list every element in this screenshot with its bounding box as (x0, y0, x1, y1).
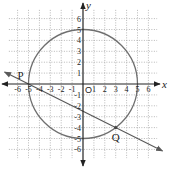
y-tick-label: -2 (74, 102, 81, 111)
point-q-marker (114, 126, 117, 129)
y-axis-label: y (85, 0, 91, 11)
diagram-canvas: -6-5-4-3-2-1123456 654321-1-2-3-4-5-6 x … (0, 0, 170, 169)
x-tick-label: 3 (114, 85, 118, 94)
x-tick-labels: -6-5-4-3-2-1123456 (14, 85, 150, 94)
point-p-label: P (18, 69, 24, 81)
x-axis-label: x (161, 78, 167, 90)
x-tick-label: -2 (58, 85, 65, 94)
y-tick-label: -6 (74, 145, 81, 154)
x-tick-label: -5 (25, 85, 32, 94)
x-tick-label: -4 (36, 85, 43, 94)
origin-label: O (85, 85, 92, 95)
y-tick-label: -4 (74, 124, 81, 133)
y-tick-label: 5 (77, 26, 81, 35)
y-tick-label: 6 (77, 15, 81, 24)
y-tick-label: 3 (77, 47, 81, 56)
coordinate-figure: -6-5-4-3-2-1123456 654321-1-2-3-4-5-6 x … (0, 0, 170, 169)
point-q-label: Q (112, 131, 120, 143)
y-tick-label: 2 (77, 58, 81, 67)
x-tick-label: -6 (14, 85, 21, 94)
y-tick-label: -1 (74, 91, 81, 100)
y-tick-label: 4 (77, 36, 81, 45)
x-tick-label: 4 (125, 85, 129, 94)
y-tick-label: -3 (74, 113, 81, 122)
y-tick-label: 1 (77, 69, 81, 78)
x-tick-label: 5 (136, 85, 140, 94)
x-tick-label: 6 (146, 85, 150, 94)
x-tick-label: 1 (92, 85, 96, 94)
y-tick-label: -5 (74, 135, 81, 144)
x-tick-label: -3 (47, 85, 54, 94)
x-tick-label: 2 (103, 85, 107, 94)
